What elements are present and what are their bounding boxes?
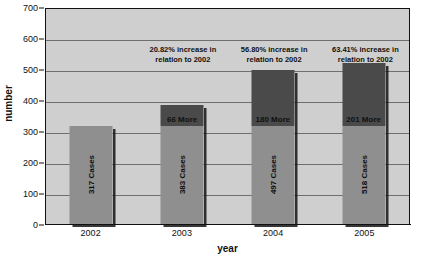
y-axis-tick-label: 500 bbox=[23, 65, 38, 75]
y-axis-tick-label: 700 bbox=[23, 3, 38, 13]
y-axis-tick-label: 300 bbox=[23, 127, 38, 137]
bar-increment-label: 66 More bbox=[167, 115, 197, 124]
bar-value-label: 497 Cases bbox=[268, 155, 277, 194]
bar-value-label: 383 Cases bbox=[178, 155, 187, 194]
bar-segment-base: 383 Cases bbox=[161, 126, 204, 224]
bar[interactable]: 66 More383 Cases bbox=[161, 105, 204, 224]
bar-segment-base: 317 Cases bbox=[70, 126, 113, 224]
x-axis-title: year bbox=[45, 243, 410, 254]
bar-slot: 66 More383 Cases bbox=[137, 9, 228, 224]
bar-slot: 201 More518 Cases bbox=[318, 9, 409, 224]
y-axis-tick-label: 400 bbox=[23, 96, 38, 106]
bar-segment-base: 518 Cases bbox=[342, 126, 385, 224]
plot-area: 317 Cases66 More383 Cases180 More497 Cas… bbox=[45, 8, 410, 225]
y-axis-tick-label: 200 bbox=[23, 158, 38, 168]
y-axis-tick-label: 0 bbox=[33, 220, 38, 230]
x-axis: 2002200320042005 bbox=[45, 228, 410, 244]
bar-value-label: 518 Cases bbox=[359, 155, 368, 194]
y-axis-tick-mark bbox=[39, 225, 44, 226]
bar-segment-increment: 66 More bbox=[161, 105, 204, 125]
bar-annotation: 63.41% increase inrelation to 2002 bbox=[317, 45, 413, 65]
y-axis: 0100200300400500600700 bbox=[0, 0, 45, 225]
bar-segment-increment: 201 More bbox=[342, 63, 385, 125]
x-axis-tick-label: 2003 bbox=[136, 228, 227, 244]
bar[interactable]: 180 More497 Cases bbox=[251, 70, 294, 224]
bar-segment-base: 497 Cases bbox=[251, 126, 294, 224]
y-axis-tick-label: 600 bbox=[23, 34, 38, 44]
x-axis-line bbox=[45, 224, 411, 225]
bar-segment-increment: 180 More bbox=[251, 70, 294, 126]
y-axis-tick-mark bbox=[39, 194, 44, 195]
bar-value-label: 317 Cases bbox=[87, 155, 96, 194]
x-axis-tick-label: 2002 bbox=[45, 228, 136, 244]
bar[interactable]: 201 More518 Cases bbox=[342, 63, 385, 224]
bar-slot: 180 More497 Cases bbox=[228, 9, 319, 224]
x-axis-tick-label: 2005 bbox=[319, 228, 410, 244]
bar-increment-label: 201 More bbox=[346, 115, 381, 124]
bar[interactable]: 317 Cases bbox=[70, 126, 113, 224]
bar-chart: number 0100200300400500600700 317 Cases6… bbox=[0, 0, 425, 262]
bar-increment-label: 180 More bbox=[256, 115, 291, 124]
bar-annotation: 20.82% increase inrelation to 2002 bbox=[135, 45, 231, 65]
y-axis-tick-mark bbox=[39, 101, 44, 102]
bar-annotation: 56.80% increase inrelation to 2002 bbox=[226, 45, 322, 65]
y-axis-tick-mark bbox=[39, 163, 44, 164]
y-axis-tick-mark bbox=[39, 70, 44, 71]
bar-slot: 317 Cases bbox=[46, 9, 137, 224]
y-axis-tick-label: 100 bbox=[23, 189, 38, 199]
y-axis-tick-mark bbox=[39, 39, 44, 40]
x-axis-tick-label: 2004 bbox=[228, 228, 319, 244]
bars-layer: 317 Cases66 More383 Cases180 More497 Cas… bbox=[46, 9, 409, 224]
y-axis-tick-mark bbox=[39, 132, 44, 133]
y-axis-tick-mark bbox=[39, 8, 44, 9]
